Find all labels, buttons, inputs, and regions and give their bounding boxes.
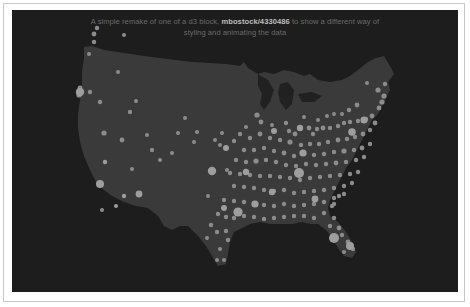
hexbin-dot [120, 138, 125, 143]
hexbin-dot [360, 146, 365, 151]
hexbin-dot [350, 181, 354, 185]
hexbin-dot-large [223, 145, 229, 151]
hexbin-dot [342, 184, 346, 188]
hexbin-dot-large [96, 180, 104, 188]
hexbin-dot-large [76, 88, 84, 96]
hexbin-dot [317, 142, 321, 146]
hexbin-dot [258, 132, 263, 137]
hexbin-dot [258, 174, 262, 178]
hexbin-dot [315, 127, 319, 131]
hexbin-dot-large [221, 205, 227, 211]
hexbin-dot [292, 191, 296, 195]
hexbin-dot [337, 194, 341, 198]
hexbin-dot [328, 224, 332, 228]
hexbin-dot [322, 211, 326, 215]
hexbin-dot [284, 121, 288, 125]
hexbin-dot [355, 103, 360, 108]
hexbin-dot [222, 258, 226, 262]
hexbin-dot [332, 150, 336, 154]
hexbin-dot [314, 163, 318, 167]
hexbin-dot [332, 196, 336, 200]
hexbin-dot [215, 230, 219, 234]
hexbin-dot [342, 192, 346, 196]
hexbin-dot [176, 131, 180, 135]
hexbin-dot [252, 148, 256, 152]
hexbin-dot [282, 202, 286, 206]
hexbin-dot [254, 112, 259, 117]
hexbin-dot [292, 204, 296, 208]
hexbin-dot [342, 250, 346, 254]
hexbin-dot-large [233, 207, 242, 216]
hexbin-dot [304, 162, 308, 166]
hexbin-dot [324, 162, 328, 166]
hexbin-dot [234, 158, 238, 162]
hexbin-dot [278, 175, 282, 179]
hexbin-dot [370, 114, 375, 119]
hexbin-dot [128, 110, 132, 114]
hexbin-dot [308, 142, 312, 146]
hexbin-dot [334, 161, 339, 166]
hexbin-dot [312, 216, 316, 220]
hexbin-dot [145, 133, 149, 137]
hexbin-dot [293, 132, 298, 137]
hexbin-dot [244, 160, 248, 164]
hexbin-dot [302, 115, 306, 119]
map-panel: A simple remake of one of a d3 block, mb… [12, 10, 458, 292]
hexbin-dot [316, 118, 320, 122]
hexbin-dot [268, 174, 272, 178]
hexbin-dot [352, 148, 356, 152]
hexbin-dot [262, 217, 266, 221]
hexbin-dot [312, 202, 316, 206]
hexbin-dot-large [312, 196, 319, 203]
hexbin-dot [264, 158, 268, 162]
hexbin-dot [262, 146, 266, 150]
hexbin-dot-large [297, 125, 303, 131]
hexbin-dot-large [329, 233, 339, 243]
hexbin-dot [282, 215, 286, 219]
hexbin-dot-large [251, 200, 258, 207]
us-hexbin-map [12, 10, 458, 292]
hexbin-dot [274, 160, 278, 164]
hexbin-dot [170, 151, 174, 155]
hexbin-dot [284, 163, 288, 167]
hexbin-dot [377, 106, 382, 111]
hexbin-dot [299, 143, 303, 147]
hexbin-dot [206, 194, 210, 198]
hexbin-dot [130, 167, 134, 171]
hexbin-dot [332, 186, 336, 190]
hexbin-dot [225, 168, 229, 172]
hexbin-dot [252, 186, 256, 190]
hexbin-dot [361, 132, 366, 137]
hexbin-dot [122, 33, 126, 37]
hexbin-dot [224, 215, 228, 219]
hexbin-dot [272, 204, 276, 208]
hexbin-dot [287, 129, 291, 133]
hexbin-dot [298, 178, 302, 182]
hexbin-dot [262, 203, 266, 207]
hexbin-dot [238, 132, 242, 136]
hexbin-dot [326, 140, 330, 144]
hexbin-dot [205, 236, 209, 240]
hexbin-dot-large [271, 128, 277, 134]
hexbin-dot [322, 200, 326, 204]
hexbin-dot-large [269, 189, 275, 195]
hexbin-dot [228, 171, 232, 175]
hexbin-dot [209, 223, 213, 227]
hexbin-dot [354, 158, 358, 162]
hexbin-dot [356, 119, 360, 123]
hexbin-dot [242, 148, 246, 152]
hexbin-dot [345, 137, 349, 141]
hexbin-dot [325, 114, 329, 118]
hexbin-dot [134, 99, 138, 103]
hexbin-dot [100, 208, 104, 212]
hexbin-dot [312, 153, 316, 157]
hexbin-dot [328, 126, 332, 130]
hexbin-dot [348, 120, 352, 124]
hexbin-dot [242, 185, 246, 189]
hexbin-dot [292, 154, 296, 158]
hexbin-dot [213, 138, 217, 142]
hexbin-dot [268, 136, 272, 140]
hexbin-dot [92, 32, 97, 37]
hexbin-dot [302, 203, 306, 207]
hexbin-dot [242, 200, 246, 204]
